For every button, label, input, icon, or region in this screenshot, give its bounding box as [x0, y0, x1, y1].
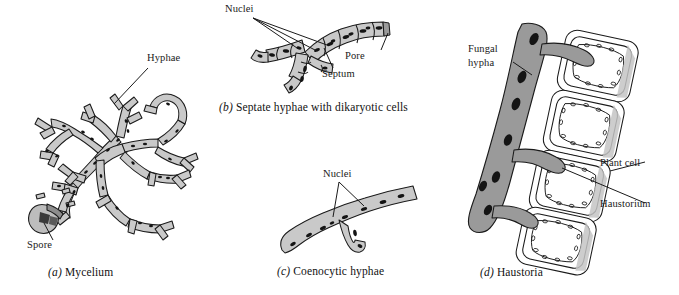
mycelium-drawing — [0, 0, 215, 265]
panel-b-septate-hyphae: Nuclei Pore Septum (b) Septate hyphae wi… — [205, 0, 450, 120]
haustoria-drawing — [450, 0, 679, 270]
caption-panel-a: (a) Mycelium — [48, 266, 113, 279]
label-nuclei-b: Nuclei — [225, 3, 254, 15]
label-nuclei-c: Nuclei — [323, 168, 352, 180]
coenocytic-drawing — [265, 160, 465, 270]
label-plant-cell: Plant cell — [600, 157, 640, 169]
figure-fungal-structures: Hyphae Spore (a) Mycelium — [0, 0, 679, 295]
label-fungal-hypha-line1: Fungal — [468, 43, 498, 55]
label-haustorium: Haustorium — [600, 198, 651, 210]
label-septum: Septum — [322, 68, 355, 80]
septate-hyphae-drawing — [205, 0, 450, 100]
label-spore: Spore — [27, 239, 52, 251]
caption-panel-d: (d) Haustoria — [480, 266, 543, 279]
leader-hyphae — [114, 68, 148, 104]
panel-c-coenocytic-hyphae: Nuclei (c) Coenocytic hyphae — [265, 160, 465, 295]
caption-text-b: Septate hyphae with dikaryotic cells — [236, 101, 408, 113]
caption-panel-b: (b) Septate hyphae with dikaryotic cells — [219, 101, 408, 114]
caption-mark-d: (d) — [480, 266, 494, 278]
label-pore: Pore — [345, 50, 365, 62]
caption-text-a: Mycelium — [65, 266, 113, 278]
caption-mark-b: (b) — [219, 101, 233, 113]
label-hyphae: Hyphae — [147, 52, 180, 64]
caption-text-c: Coenocytic hyphae — [293, 265, 384, 277]
caption-mark-a: (a) — [48, 266, 62, 278]
panel-d-haustoria: Fungal hypha Plant cell Haustorium (d) H… — [450, 0, 679, 295]
pore-shape — [383, 22, 390, 36]
panel-a-mycelium: Hyphae Spore (a) Mycelium — [0, 0, 215, 295]
caption-panel-c: (c) Coenocytic hyphae — [277, 265, 384, 278]
caption-mark-c: (c) — [277, 265, 290, 277]
label-fungal-hypha-line2: hypha — [468, 57, 494, 69]
caption-text-d: Haustoria — [497, 266, 543, 278]
